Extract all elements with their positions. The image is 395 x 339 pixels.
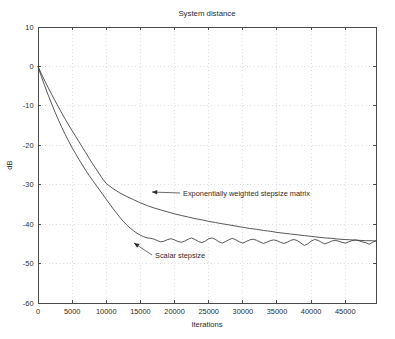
x-tick-label: 40000 [301,307,322,316]
y-tick-label: -20 [23,141,34,150]
x-tick-label: 45000 [335,307,356,316]
y-axis-label: dB [5,160,14,169]
x-tick-label: 30000 [233,307,254,316]
y-tick-label: -40 [23,220,34,229]
x-tick-label: 25000 [198,307,219,316]
chart-title: System distance [178,9,235,18]
y-tick-label: 0 [29,62,33,71]
annotation-label: Exponentially weighted stepsize matrix [183,189,310,198]
y-tick-label: -10 [23,101,34,110]
y-tick-label: -60 [23,299,34,308]
x-tick-label: 20000 [164,307,185,316]
x-tick-label: 15000 [130,307,151,316]
x-axis-label: Iterations [191,320,222,329]
y-tick-label: 10 [25,23,33,32]
chart-background [0,0,395,339]
x-tick-label: 10000 [96,307,117,316]
x-tick-label: 35000 [267,307,288,316]
system-distance-chart: System distance 100-10-20-30-40-50-60050… [0,0,395,339]
y-tick-label: -30 [23,180,34,189]
x-tick-label: 5000 [64,307,80,316]
figure-canvas: System distance 100-10-20-30-40-50-60050… [0,0,395,339]
x-tick-label: 0 [36,307,40,316]
annotation-label: Scalar stepsize [155,251,205,260]
y-tick-label: -50 [23,259,34,268]
